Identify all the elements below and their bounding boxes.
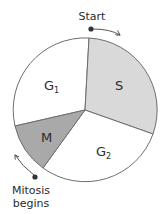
phase-m-label: M	[41, 130, 52, 145]
mitosis-label-line2: begins	[13, 197, 50, 210]
cell-cycle-diagram: G1 S G2 M Start Mitosis begins	[0, 0, 168, 214]
mitosis-label-line1: Mitosis	[12, 184, 50, 197]
start-arrow-icon	[93, 29, 120, 35]
start-dot-icon	[88, 26, 93, 31]
mitosis-dot-icon	[32, 174, 37, 179]
start-label: Start	[79, 10, 107, 23]
phase-s-label: S	[115, 78, 123, 93]
